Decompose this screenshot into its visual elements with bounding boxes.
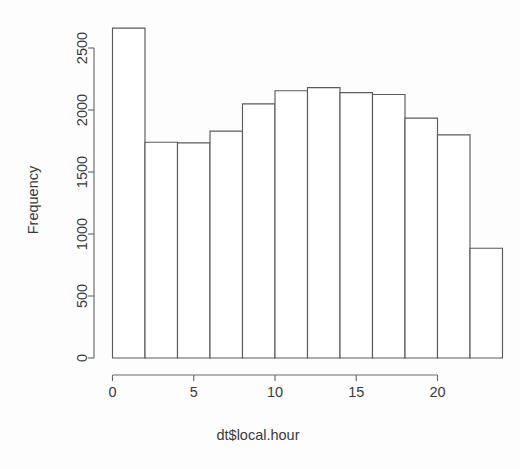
x-tick-label: 10 xyxy=(267,384,283,400)
histogram-bar xyxy=(243,104,276,358)
x-tick-label: 5 xyxy=(190,384,198,400)
histogram-bar xyxy=(373,95,406,359)
y-tick-label: 2500 xyxy=(74,32,90,64)
histogram-figure: 05001000150020002500 05101520 dt$local.h… xyxy=(0,0,520,469)
y-axis-title: Frequency xyxy=(25,165,41,234)
histogram-bar xyxy=(275,91,308,358)
y-tick-label: 1000 xyxy=(74,218,90,250)
histogram-bar xyxy=(178,143,211,358)
y-axis: 05001000150020002500 xyxy=(74,32,94,362)
histogram-svg: 05001000150020002500 05101520 dt$local.h… xyxy=(0,0,520,469)
x-tick-label: 15 xyxy=(348,384,364,400)
histogram-bar xyxy=(438,135,471,358)
x-tick-label: 20 xyxy=(429,384,445,400)
bars-group xyxy=(113,28,503,358)
x-axis: 05101520 xyxy=(108,375,445,400)
y-tick-label: 0 xyxy=(74,354,90,362)
plot-area: 05001000150020002500 05101520 dt$local.h… xyxy=(0,0,520,469)
histogram-bar xyxy=(470,248,503,358)
histogram-bar xyxy=(113,28,146,358)
x-axis-title: dt$local.hour xyxy=(216,427,299,443)
histogram-bar xyxy=(210,131,243,358)
y-tick-label: 500 xyxy=(74,284,90,308)
y-tick-label: 1500 xyxy=(74,156,90,188)
y-tick-label: 2000 xyxy=(74,94,90,126)
histogram-bar xyxy=(405,118,438,358)
histogram-bar xyxy=(340,93,373,358)
x-tick-label: 0 xyxy=(108,384,116,400)
histogram-bar xyxy=(145,142,178,358)
histogram-bar xyxy=(308,88,341,358)
